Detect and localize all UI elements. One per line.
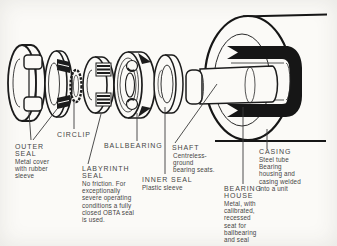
bearing-house-desc: Metal, with calibrated, recessed seat fo… xyxy=(224,200,256,243)
shaft-desc: Centreless- ground bearing seats. xyxy=(173,152,215,174)
bearing-exploded-diagram: OUTER SEAL Metal cover with rubber sleev… xyxy=(0,0,337,246)
circlip-label: CIRCLIP xyxy=(57,131,91,138)
ballbearing-label: BALLBEARING xyxy=(104,142,163,149)
inner-seal-drawing xyxy=(154,55,183,113)
inner-seal-desc: Plastic sleeve xyxy=(142,184,183,191)
ballbearing-drawing xyxy=(114,52,155,118)
casing-desc: Steel tube Bearing housing and casing we… xyxy=(259,156,301,192)
labyrinth-seal-label: LABYRINTH SEAL xyxy=(82,165,129,180)
inner-seal-label: INNER SEAL xyxy=(142,176,193,183)
labyrinth-seal-desc: No friction. For exceptionally severe op… xyxy=(82,180,134,223)
rubber-sleeve-ring-drawing xyxy=(45,51,72,117)
outer-seal-desc: Metal cover with rubber sleeve xyxy=(15,158,49,180)
bearing-house-label: BEARING HOUSE xyxy=(224,185,262,200)
shaft-drawing xyxy=(186,66,277,104)
outer-seal-label: OUTER SEAL xyxy=(15,143,44,158)
outer-seal-drawing xyxy=(8,45,45,121)
shaft-label: SHAFT xyxy=(172,144,199,151)
diagram-line-art xyxy=(0,0,337,246)
labyrinth-seal-drawing xyxy=(83,57,114,113)
casing-label: CASING xyxy=(259,148,291,155)
